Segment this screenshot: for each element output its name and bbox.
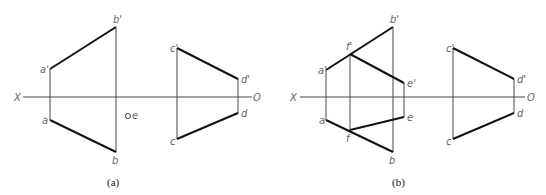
svg-text:b: b bbox=[389, 155, 395, 166]
line-cd-front bbox=[177, 48, 238, 79]
svg-text:a: a bbox=[319, 115, 325, 126]
projection-diagram: X O a' b' a b c' d' c d e (a) X O bbox=[0, 0, 546, 195]
svg-text:c: c bbox=[170, 136, 176, 147]
line-cd-top bbox=[177, 113, 238, 139]
svg-text:a: a bbox=[42, 115, 48, 126]
svg-text:d': d' bbox=[241, 74, 250, 85]
line-ab-top bbox=[326, 120, 393, 152]
line-cd-front bbox=[453, 48, 514, 79]
caption-b: (b) bbox=[392, 176, 405, 189]
figure-b: X O a' f' b' e' a f b e c' d' c d (b) bbox=[289, 14, 535, 189]
axis-label-o: O bbox=[527, 92, 535, 103]
svg-text:c': c' bbox=[170, 43, 178, 54]
svg-text:a': a' bbox=[40, 64, 49, 75]
svg-text:f': f' bbox=[346, 41, 352, 52]
line-ab-top bbox=[50, 120, 116, 152]
axis-label-x: X bbox=[289, 92, 298, 103]
line-fe-front bbox=[350, 54, 404, 83]
svg-text:c: c bbox=[446, 136, 452, 147]
svg-text:e: e bbox=[132, 110, 138, 121]
caption-a: (a) bbox=[107, 176, 120, 189]
line-fe-top bbox=[350, 117, 404, 130]
svg-text:f: f bbox=[346, 133, 351, 144]
svg-text:b': b' bbox=[390, 14, 399, 25]
svg-text:b: b bbox=[112, 155, 118, 166]
axis-label-x: X bbox=[13, 92, 22, 103]
svg-text:e: e bbox=[407, 112, 413, 123]
line-cd-top bbox=[453, 113, 514, 139]
line-ab-front bbox=[326, 27, 393, 70]
svg-text:e': e' bbox=[407, 78, 416, 89]
svg-text:d: d bbox=[517, 108, 524, 119]
line-ab-front bbox=[50, 27, 116, 69]
svg-text:c': c' bbox=[446, 43, 454, 54]
axis-label-o: O bbox=[253, 92, 261, 103]
svg-text:b': b' bbox=[113, 14, 122, 25]
svg-text:d': d' bbox=[517, 74, 526, 85]
figure-a: X O a' b' a b c' d' c d e (a) bbox=[13, 14, 261, 189]
svg-text:d: d bbox=[241, 108, 248, 119]
svg-text:a': a' bbox=[318, 65, 327, 76]
point-e bbox=[126, 114, 131, 119]
